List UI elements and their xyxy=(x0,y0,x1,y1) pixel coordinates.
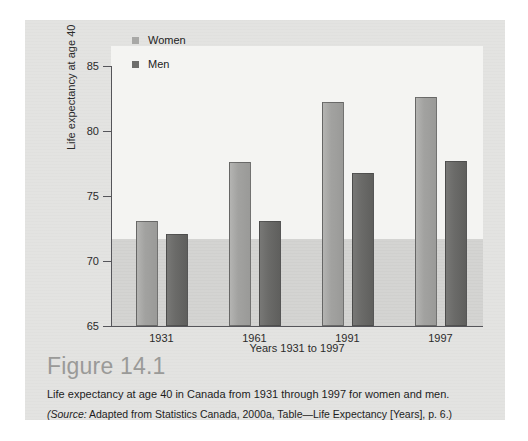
bar-men-1991 xyxy=(352,173,374,326)
figure-source-text: Adapted from Statistics Canada, 2000a, T… xyxy=(87,408,452,420)
y-tick-label-70: 70 xyxy=(73,256,99,266)
y-axis-title: Life expectancy at age 40 xyxy=(65,25,77,150)
bar-women-1961 xyxy=(229,162,251,326)
legend-swatch-men-icon xyxy=(132,61,139,68)
bar-women-1991 xyxy=(322,102,344,326)
figure-source: (Source: Adapted from Statistics Canada,… xyxy=(47,408,492,420)
legend-label-men: Men xyxy=(148,58,169,70)
chart-plot-area: 6570758085 1931196119911997 xyxy=(111,46,483,326)
y-tick-80 xyxy=(103,131,111,132)
legend-label-women: Women xyxy=(148,34,186,46)
figure-caption: Life expectancy at age 40 in Canada from… xyxy=(47,388,487,400)
x-axis-title: Years 1931 to 1997 xyxy=(111,342,483,354)
y-tick-label-65: 65 xyxy=(73,321,99,331)
figure-source-prefix: (Source: xyxy=(47,408,87,420)
y-tick-70 xyxy=(103,261,111,262)
y-tick-75 xyxy=(103,196,111,197)
bar-women-1931 xyxy=(136,221,158,326)
y-axis-line xyxy=(111,66,112,326)
legend-swatch-women-icon xyxy=(132,37,139,44)
x-axis-line xyxy=(111,326,483,327)
y-tick-label-75: 75 xyxy=(73,191,99,201)
bar-men-1997 xyxy=(445,161,467,326)
figure-card: 6570758085 1931196119911997 Life expecta… xyxy=(25,20,505,420)
figure-number: Figure 14.1 xyxy=(47,353,166,380)
bar-men-1961 xyxy=(259,221,281,326)
y-tick-65 xyxy=(103,326,111,327)
chart-legend: Women Men xyxy=(132,34,186,82)
legend-item-women: Women xyxy=(132,34,186,46)
y-tick-85 xyxy=(103,66,111,67)
legend-item-men: Men xyxy=(132,58,186,70)
bar-women-1997 xyxy=(415,97,437,326)
bar-men-1931 xyxy=(166,234,188,326)
